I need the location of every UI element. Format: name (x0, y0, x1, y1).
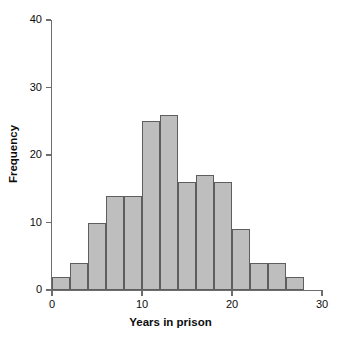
y-axis-tick (46, 289, 51, 290)
y-axis-tick-label: 30 (16, 82, 42, 93)
histogram-bar (196, 175, 214, 290)
x-axis-tick-label: 0 (37, 299, 67, 310)
histogram-bar (70, 263, 88, 290)
histogram-bar (214, 182, 232, 290)
plot-area (52, 20, 322, 290)
y-axis-tick (46, 87, 51, 88)
histogram-bar (178, 182, 196, 290)
y-axis-tick-label: 20 (16, 149, 42, 160)
x-axis-title: Years in prison (0, 316, 341, 328)
x-axis-tick (231, 291, 232, 296)
histogram-bar (160, 115, 178, 291)
x-axis-tick-label: 30 (307, 299, 337, 310)
histogram-bar (268, 263, 286, 290)
x-axis-line (51, 290, 323, 291)
y-axis-title: Frequency (7, 104, 19, 204)
histogram-bar (286, 277, 304, 291)
x-axis-tick-label: 10 (127, 299, 157, 310)
histogram-bar (52, 277, 70, 291)
y-axis-tick-label: 0 (16, 284, 42, 295)
x-axis-tick-label: 20 (217, 299, 247, 310)
histogram-bar (106, 196, 124, 291)
histogram-bar (232, 229, 250, 290)
y-axis-tick (46, 222, 51, 223)
histogram-bar (250, 263, 268, 290)
x-axis-tick (321, 291, 322, 296)
histogram-bar (142, 121, 160, 290)
histogram-figure: 010203040 0102030 Years in prison Freque… (0, 0, 341, 342)
y-axis-tick (46, 19, 51, 20)
histogram-bar (124, 196, 142, 291)
x-axis-tick (51, 291, 52, 296)
y-axis-line (51, 20, 52, 291)
y-axis-tick-label: 10 (16, 217, 42, 228)
histogram-bar (88, 223, 106, 291)
y-axis-tick (46, 154, 51, 155)
y-axis-tick-label: 40 (16, 14, 42, 25)
x-axis-tick (141, 291, 142, 296)
